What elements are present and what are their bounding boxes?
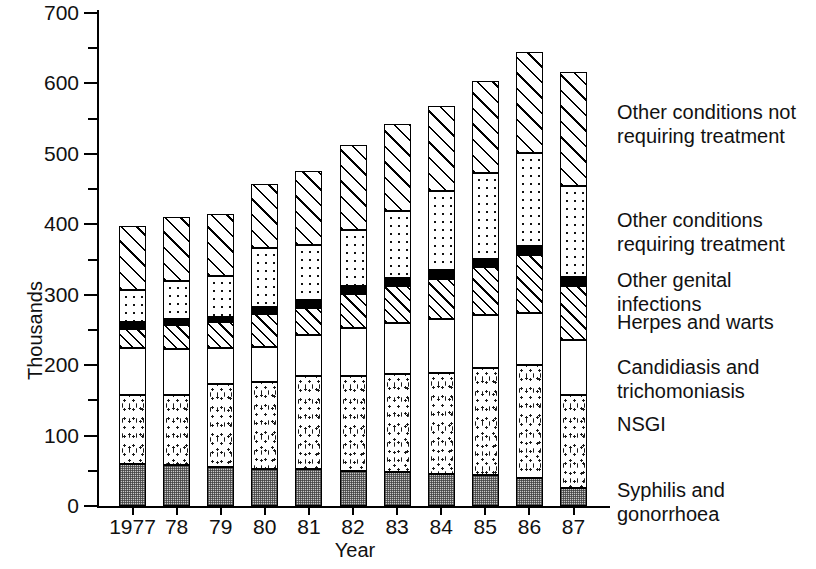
bar-segment[interactable] (560, 340, 587, 394)
bar-segment[interactable] (472, 259, 499, 267)
bar-segment[interactable] (340, 471, 367, 506)
bar-segment[interactable] (428, 270, 455, 278)
bar-segment[interactable] (119, 322, 146, 328)
bar-80[interactable] (251, 13, 278, 506)
x-axis-tick (573, 508, 575, 515)
bar-segment[interactable] (295, 171, 322, 246)
bar-segment[interactable] (119, 290, 146, 322)
bar-segment[interactable] (516, 478, 543, 506)
bar-segment[interactable] (163, 217, 190, 280)
bar-segment[interactable] (472, 81, 499, 173)
bar-segment[interactable] (119, 226, 146, 290)
legend-item: Herpes and warts (617, 310, 816, 334)
bar-segment[interactable] (560, 488, 587, 506)
bar-segment[interactable] (428, 191, 455, 270)
bar-segment[interactable] (340, 294, 367, 328)
bar-segment[interactable] (251, 307, 278, 315)
bar-segment[interactable] (207, 322, 234, 347)
bar-segment[interactable] (472, 315, 499, 368)
bar-segment[interactable] (251, 248, 278, 307)
bar-segment[interactable] (516, 52, 543, 153)
bar-segment[interactable] (560, 277, 587, 285)
x-axis-tick (176, 508, 178, 515)
y-axis-tick (84, 294, 99, 296)
bar-segment[interactable] (207, 384, 234, 467)
bar-segment[interactable] (384, 323, 411, 374)
bar-segment[interactable] (251, 382, 278, 469)
bar-segment[interactable] (251, 347, 278, 382)
bar-segment[interactable] (119, 395, 146, 463)
bar-segment[interactable] (560, 395, 587, 489)
bar-segment[interactable] (163, 281, 190, 320)
x-axis-tick (308, 508, 310, 515)
bar-segment[interactable] (428, 279, 455, 319)
bar-segment[interactable] (384, 278, 411, 286)
y-axis-minor-tick (88, 47, 99, 49)
bar-1977[interactable] (119, 13, 146, 506)
bar-segment[interactable] (207, 348, 234, 385)
bar-segment[interactable] (340, 376, 367, 471)
bar-segment[interactable] (207, 467, 234, 506)
bar-segment[interactable] (516, 246, 543, 254)
bar-segment[interactable] (560, 186, 587, 278)
bar-87[interactable] (560, 13, 587, 506)
bar-82[interactable] (340, 13, 367, 506)
bar-84[interactable] (428, 13, 455, 506)
bar-85[interactable] (472, 13, 499, 506)
bar-segment[interactable] (119, 329, 146, 349)
y-axis-tick-label: 200 (17, 354, 79, 375)
bar-segment[interactable] (251, 469, 278, 506)
bar-segment[interactable] (340, 145, 367, 230)
bar-segment[interactable] (295, 335, 322, 377)
bar-segment[interactable] (516, 313, 543, 365)
bar-segment[interactable] (295, 300, 322, 308)
bar-segment[interactable] (295, 376, 322, 469)
bar-segment[interactable] (516, 365, 543, 478)
bar-segment[interactable] (207, 214, 234, 277)
bar-segment[interactable] (207, 276, 234, 316)
bar-segment[interactable] (384, 286, 411, 323)
legend-item: Other conditions requiring treatment (617, 208, 816, 256)
bar-segment[interactable] (251, 314, 278, 346)
bar-segment[interactable] (340, 230, 367, 286)
y-axis-tick-label: 600 (17, 72, 79, 93)
bar-segment[interactable] (384, 374, 411, 473)
bar-segment[interactable] (384, 124, 411, 211)
bar-segment[interactable] (340, 328, 367, 376)
bar-segment[interactable] (119, 464, 146, 506)
bar-segment[interactable] (207, 317, 234, 323)
bar-segment[interactable] (472, 368, 499, 475)
bar-segment[interactable] (163, 395, 190, 465)
bar-segment[interactable] (295, 245, 322, 300)
bar-segment[interactable] (560, 286, 587, 341)
bar-segment[interactable] (472, 267, 499, 315)
bar-segment[interactable] (163, 325, 190, 349)
x-axis-tick (440, 508, 442, 515)
bar-segment[interactable] (163, 349, 190, 395)
bar-segment[interactable] (560, 72, 587, 185)
bar-segment[interactable] (516, 255, 543, 313)
bar-83[interactable] (384, 13, 411, 506)
bar-segment[interactable] (340, 286, 367, 294)
bar-segment[interactable] (163, 465, 190, 506)
bar-segment[interactable] (472, 475, 499, 506)
bar-segment[interactable] (428, 373, 455, 474)
bar-segment[interactable] (163, 319, 190, 325)
y-axis-minor-tick (88, 329, 99, 331)
bar-81[interactable] (295, 13, 322, 506)
bar-segment[interactable] (295, 308, 322, 335)
bar-segment[interactable] (384, 211, 411, 278)
bar-segment[interactable] (428, 474, 455, 506)
bar-segment[interactable] (384, 472, 411, 506)
bar-segment[interactable] (516, 153, 543, 246)
x-axis-tick (220, 508, 222, 515)
bar-segment[interactable] (428, 319, 455, 373)
bar-segment[interactable] (251, 184, 278, 247)
bar-79[interactable] (207, 13, 234, 506)
bar-segment[interactable] (472, 173, 499, 259)
bar-78[interactable] (163, 13, 190, 506)
bar-segment[interactable] (119, 348, 146, 395)
bar-segment[interactable] (428, 106, 455, 191)
bar-86[interactable] (516, 13, 543, 506)
bar-segment[interactable] (295, 469, 322, 506)
